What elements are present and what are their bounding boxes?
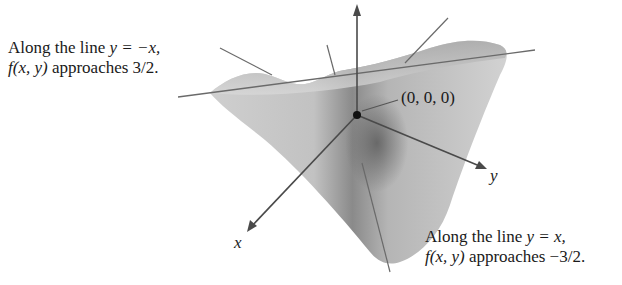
- annotation-right-math1: y = x,: [527, 227, 566, 246]
- annotation-left-line1: Along the line: [8, 38, 110, 57]
- annotation-left: Along the line y = −x, f(x, y) approache…: [8, 38, 160, 78]
- x-axis-label: x: [234, 233, 242, 253]
- annotation-right-line2: approaches −3/2.: [465, 247, 586, 266]
- origin-point: [353, 111, 361, 119]
- origin-label: (0, 0, 0): [401, 88, 455, 108]
- figure: Along the line y = −x, f(x, y) approache…: [0, 0, 622, 285]
- annotation-right: Along the line y = x, f(x, y) approaches…: [425, 227, 585, 267]
- annotation-right-line1: Along the line: [425, 227, 527, 246]
- annotation-left-math1: y = −x,: [110, 38, 161, 57]
- annotation-right-math2: f(x, y): [425, 247, 465, 266]
- annotation-left-line2: approaches 3/2.: [48, 58, 159, 77]
- y-axis-label: y: [490, 166, 498, 186]
- annotation-left-math2: f(x, y): [8, 58, 48, 77]
